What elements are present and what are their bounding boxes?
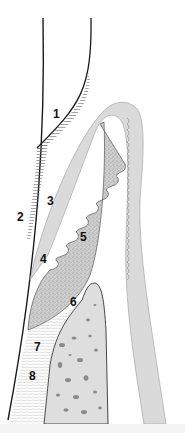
label-4: 4 [40, 252, 47, 266]
label-1: 1 [53, 107, 60, 121]
bottom-strip [0, 424, 185, 433]
periodontal-diagram: 1 2 3 4 5 6 7 8 [0, 0, 185, 433]
label-5: 5 [80, 230, 87, 244]
label-7: 7 [34, 340, 41, 354]
label-6: 6 [70, 295, 77, 309]
label-8: 8 [29, 369, 36, 383]
label-2: 2 [17, 210, 24, 224]
label-3: 3 [47, 194, 54, 208]
